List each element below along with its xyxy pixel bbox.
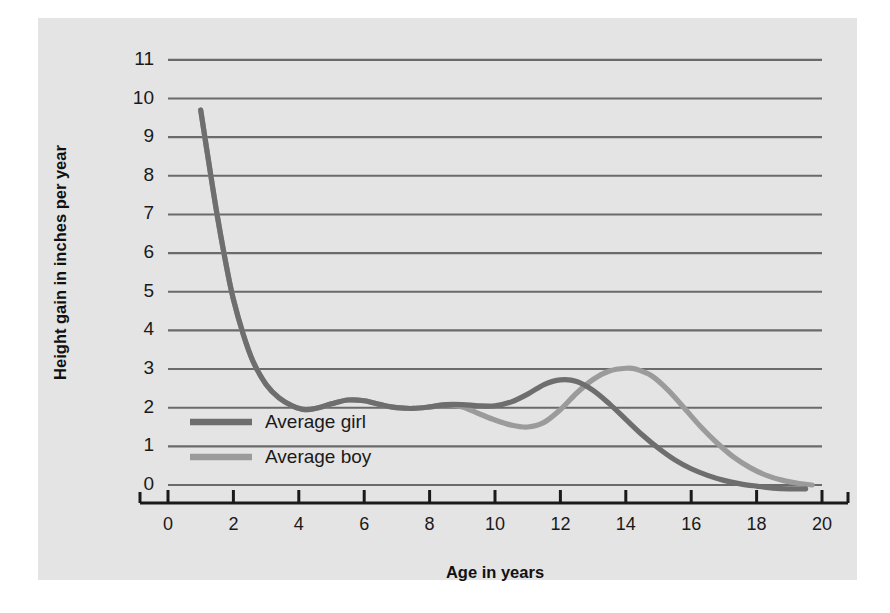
y-axis-title: Height gain in inches per year bbox=[51, 113, 70, 413]
x-tick-label: 16 bbox=[671, 515, 711, 533]
legend-label: Average boy bbox=[265, 447, 371, 466]
y-tick-label: 2 bbox=[120, 397, 154, 416]
x-tick-label: 2 bbox=[213, 515, 253, 533]
x-tick-label: 20 bbox=[802, 515, 842, 533]
y-tick-label: 1 bbox=[120, 435, 154, 454]
y-tick-label: 0 bbox=[120, 474, 154, 493]
x-tick-label: 12 bbox=[540, 515, 580, 533]
y-tick-label: 11 bbox=[120, 49, 154, 68]
y-tick-label: 7 bbox=[120, 203, 154, 222]
x-axis-title: Age in years bbox=[168, 563, 822, 582]
y-tick-label: 8 bbox=[120, 165, 154, 184]
x-tick-label: 6 bbox=[344, 515, 384, 533]
growth-velocity-chart: 01234567891011 02468101214161820 Average… bbox=[0, 0, 890, 613]
chart-panel-background bbox=[38, 18, 857, 580]
y-tick-label: 3 bbox=[120, 358, 154, 377]
y-tick-label: 10 bbox=[120, 88, 154, 107]
y-tick-label: 4 bbox=[120, 319, 154, 338]
x-tick-label: 8 bbox=[410, 515, 450, 533]
x-tick-label: 4 bbox=[279, 515, 319, 533]
x-tick-label: 14 bbox=[606, 515, 646, 533]
x-tick-label: 10 bbox=[475, 515, 515, 533]
x-tick-label: 0 bbox=[148, 515, 188, 533]
y-tick-label: 5 bbox=[120, 281, 154, 300]
y-tick-label: 9 bbox=[120, 126, 154, 145]
y-tick-label: 6 bbox=[120, 242, 154, 261]
legend-label: Average girl bbox=[265, 412, 366, 431]
x-tick-label: 18 bbox=[737, 515, 777, 533]
